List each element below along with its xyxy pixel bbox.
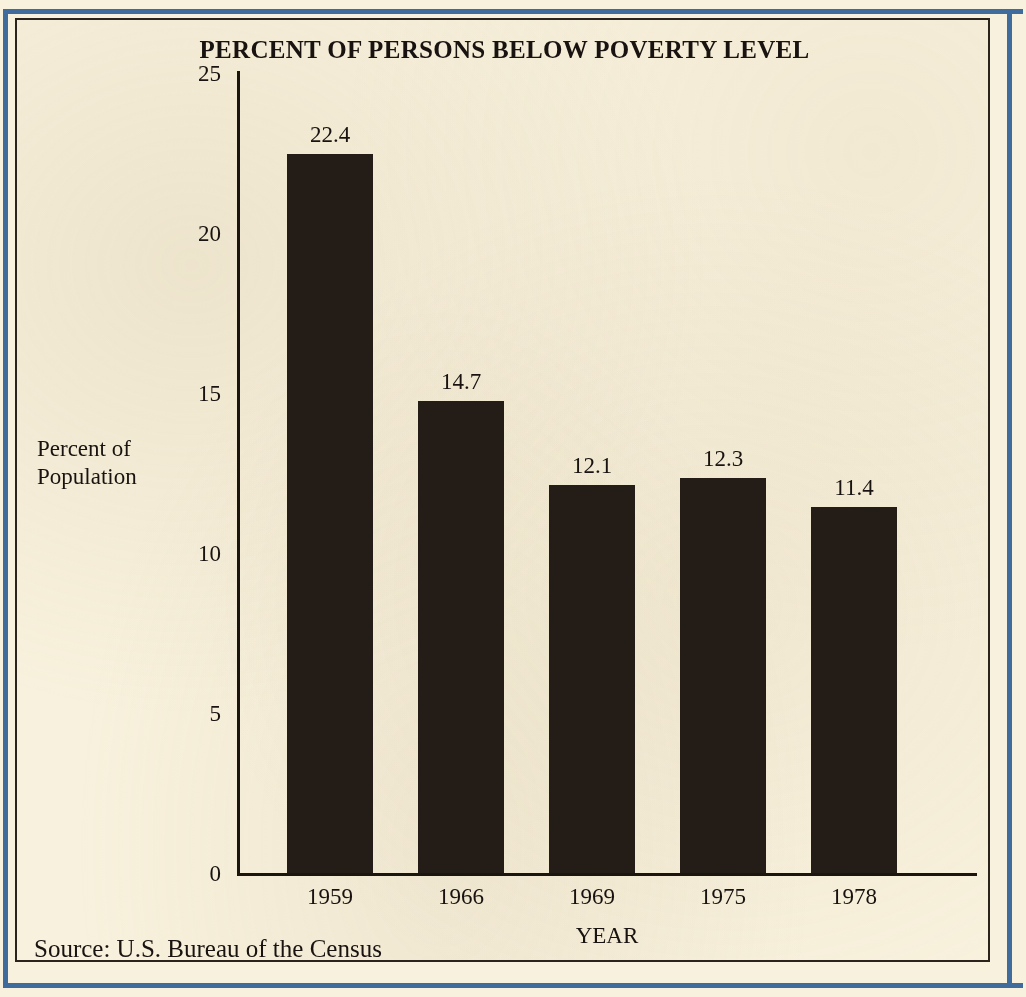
y-axis-title: Percent of Population: [37, 435, 137, 491]
outer-border-top: [3, 9, 1023, 14]
plot-area: 25 20 15 10 5 0 Percent of Population 22…: [17, 20, 992, 964]
y-tick-label-5: 5: [115, 702, 235, 725]
bar-value-1975: 12.3: [703, 447, 743, 470]
bar-1978: [811, 507, 897, 873]
y-tick-label-15: 15: [115, 382, 235, 405]
bar-value-1959: 22.4: [310, 123, 350, 146]
bar-value-1969: 12.1: [572, 454, 612, 477]
x-tick-label-1978: 1978: [831, 884, 877, 910]
bar-1969: [549, 485, 635, 873]
outer-border-right: [1007, 9, 1012, 988]
x-tick-label-1975: 1975: [700, 884, 746, 910]
y-tick-label-20: 20: [115, 222, 235, 245]
figure-frame: PERCENT OF PERSONS BELOW POVERTY LEVEL 2…: [15, 18, 990, 962]
x-tick-label-1969: 1969: [569, 884, 615, 910]
outer-border-bottom: [3, 983, 1023, 988]
bar-1959: [287, 154, 373, 873]
y-tick-label-0: 0: [115, 862, 235, 885]
source-note: Source: U.S. Bureau of the Census: [34, 935, 382, 963]
x-axis-line: [237, 873, 977, 876]
bar-value-1966: 14.7: [441, 370, 481, 393]
page-canvas: PERCENT OF PERSONS BELOW POVERTY LEVEL 2…: [0, 0, 1026, 997]
x-tick-label-1966: 1966: [438, 884, 484, 910]
x-tick-label-1959: 1959: [307, 884, 353, 910]
bar-value-1978: 11.4: [834, 476, 873, 499]
y-tick-label-25: 25: [115, 62, 235, 85]
y-tick-label-10: 10: [115, 542, 235, 565]
bar-1966: [418, 401, 504, 873]
bar-1975: [680, 478, 766, 873]
outer-border-left: [3, 9, 8, 988]
y-axis-line: [237, 71, 240, 876]
